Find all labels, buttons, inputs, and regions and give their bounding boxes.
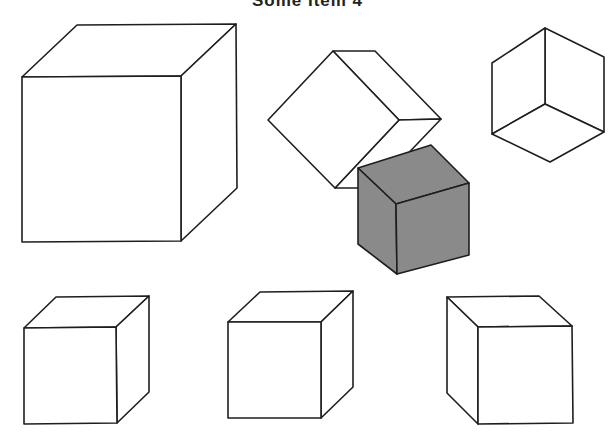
option-cube-c bbox=[447, 296, 573, 424]
option-cube-a bbox=[24, 296, 149, 424]
option-cube-b bbox=[228, 291, 353, 418]
gray-cube bbox=[358, 145, 469, 274]
large-cube-front-face bbox=[22, 76, 181, 242]
below-view-cube bbox=[492, 28, 604, 162]
cube-figure bbox=[0, 0, 615, 440]
option-cube-c-front-face bbox=[478, 326, 573, 424]
option-cube-a-front-face bbox=[24, 327, 117, 424]
large-cube bbox=[22, 24, 237, 242]
option-cube-b-front-face bbox=[228, 322, 321, 418]
